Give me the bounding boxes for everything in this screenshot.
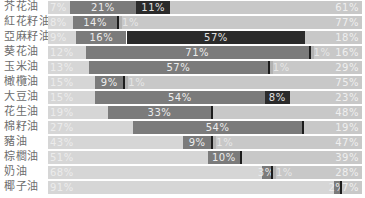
bar-segment: 77% [120,16,362,29]
bar-segment: 61% [170,1,362,14]
value-label: 48% [335,106,359,119]
value-label: 9% [50,31,67,44]
bar-segment: 1% [213,136,216,149]
bar-segment: 19% [48,106,108,119]
bar-segment: 1% [311,46,314,59]
bar-row: 棉籽油27%54%19% [0,120,365,134]
trace-marker [211,106,213,119]
value-label: 7% [50,1,67,14]
value-label: 1% [216,136,233,149]
bar-segment: 47% [214,136,362,149]
value-label: 71% [185,46,209,59]
value-label: 9% [189,136,206,149]
value-label: 54% [206,121,230,134]
category-label: 亞麻籽油 [4,30,50,44]
bar-segment: 51% [48,151,208,164]
stacked-bar: 9%16%57%18% [48,31,362,44]
bar-segment: 10% [208,151,239,164]
bar-row: 花生油19%33%48% [0,105,365,119]
value-label: 12% [50,46,74,59]
bar-segment: 21% [70,1,136,14]
bar-segment: 71% [86,46,309,59]
value-label: 28% [335,166,359,179]
stacked-bar: 19%33%48% [48,106,362,119]
stacked-bar-chart: 芥花油7%21%11%61%紅花籽油8%14%1%77%亞麻籽油9%16%57%… [0,0,365,198]
value-label: 75% [335,76,359,89]
bar-segment: 68% [48,166,262,179]
stacked-bar: 27%54%19% [48,121,362,134]
bar-segment: 39% [240,151,362,164]
trace-marker [302,121,304,134]
bar-segment: 9% [183,136,211,149]
stacked-bar: 43%9%1%47% [48,136,362,149]
bar-segment: 7% [340,181,362,194]
category-label: 芥花油 [4,0,39,14]
trace-marker [340,181,342,194]
bar-segment: 1% [273,166,276,179]
stacked-bar: 7%21%11%61% [48,1,362,14]
value-label: 39% [335,151,359,164]
value-label: 1% [314,46,331,59]
value-label: 9% [101,76,118,89]
bar-segment: 9% [95,76,123,89]
bar-row: 紅花籽油8%14%1%77% [0,15,365,29]
stacked-bar: 13%57%1%29% [48,61,362,74]
bar-segment: 11% [136,1,171,14]
bar-segment: 43% [48,136,183,149]
category-label: 大豆油 [4,90,39,104]
value-label: 21% [91,1,115,14]
bar-segment: 14% [73,16,117,29]
bar-segment: 48% [211,106,362,119]
value-label: 54% [168,91,192,104]
value-label: 91% [50,181,74,194]
bar-row: 豬油43%9%1%47% [0,135,365,149]
trace-marker [240,151,242,164]
stacked-bar: 68%3%1%28% [48,166,362,179]
value-label: 1% [276,166,293,179]
bar-row: 棕櫚油51%10%39% [0,150,365,164]
category-label: 奶油 [4,165,27,179]
category-label: 葵花油 [4,45,39,59]
bar-segment: 23% [290,91,362,104]
value-label: 11% [141,1,165,14]
bar-segment: 8% [48,16,73,29]
value-label: 14% [83,16,107,29]
bar-segment: 9% [48,31,76,44]
value-label: 47% [335,136,359,149]
bar-segment: 33% [108,106,212,119]
value-label: 33% [148,106,172,119]
bar-segment: 18% [305,31,362,44]
bar-segment: 54% [133,121,303,134]
value-label: 8% [50,16,67,29]
value-label: 57% [166,61,190,74]
bar-segment: 57% [89,61,268,74]
bar-row: 椰子油91%2%7% [0,180,365,194]
stacked-bar: 12%71%1%16% [48,46,362,59]
stacked-bar: 91%2%7% [48,181,362,194]
value-label: 19% [335,121,359,134]
bar-segment: 91% [48,181,334,194]
category-label: 棕櫚油 [4,150,39,164]
category-label: 橄欖油 [4,75,39,89]
value-label: 10% [212,151,236,164]
value-label: 68% [50,166,74,179]
bar-row: 橄欖油15%9%1%75% [0,75,365,89]
bar-row: 葵花油12%71%1%16% [0,45,365,59]
value-label: 1% [122,16,139,29]
category-label: 花生油 [4,105,39,119]
bar-segment: 7% [48,1,70,14]
bar-segment: 27% [48,121,133,134]
category-label: 豬油 [4,135,27,149]
bar-segment: 3% [262,166,271,179]
bar-row: 大豆油15%54%8%23% [0,90,365,104]
bar-row: 芥花油7%21%11%61% [0,0,365,14]
value-label: 8% [269,91,286,104]
bar-row: 奶油68%3%1%28% [0,165,365,179]
stacked-bar: 51%10%39% [48,151,362,164]
value-label: 43% [50,136,74,149]
bar-segment: 1% [270,61,273,74]
value-label: 15% [50,91,74,104]
value-label: 16% [335,46,359,59]
value-label: 18% [335,31,359,44]
bar-segment: 54% [95,91,265,104]
